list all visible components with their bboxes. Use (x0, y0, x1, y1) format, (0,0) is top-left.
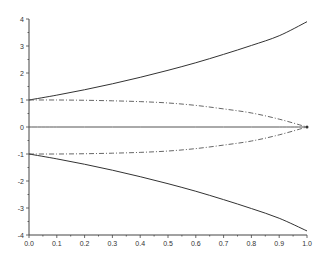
series-lower-solid (29, 154, 307, 231)
x-tick-label: 1.0 (302, 240, 312, 247)
x-tick-label: 0.1 (52, 240, 62, 247)
y-tick-label: -2 (18, 178, 24, 185)
y-axis-tick-labels: -4-3-2-101234 (18, 16, 24, 239)
x-tick-label: 0.7 (219, 240, 229, 247)
series-lower-dashdot (29, 127, 307, 154)
x-tick-label: 0.9 (274, 240, 284, 247)
x-tick-label: 0.2 (80, 240, 90, 247)
line-chart: 0.00.10.20.30.40.50.60.70.80.91.0 -4-3-2… (0, 0, 326, 259)
series-upper-dashdot (29, 100, 307, 127)
x-tick-label: 0.6 (191, 240, 201, 247)
x-tick-label: 0.0 (24, 240, 34, 247)
y-tick-label: 1 (20, 97, 24, 104)
y-tick-label: -4 (18, 232, 24, 239)
x-axis-tick-labels: 0.00.10.20.30.40.50.60.70.80.91.0 (24, 240, 312, 247)
x-tick-label: 0.3 (108, 240, 118, 247)
y-tick-label: -1 (18, 151, 24, 158)
axes (26, 19, 307, 238)
y-tick-label: 4 (20, 16, 24, 23)
series-upper-solid (29, 22, 307, 100)
y-tick-label: 3 (20, 43, 24, 50)
y-tick-label: 2 (20, 70, 24, 77)
x-tick-label: 0.8 (247, 240, 257, 247)
y-tick-label: 0 (20, 124, 24, 131)
x-tick-label: 0.4 (135, 240, 145, 247)
chart-series (29, 22, 309, 231)
y-tick-label: -3 (18, 205, 24, 212)
x-tick-label: 0.5 (163, 240, 173, 247)
convergence-point (306, 126, 309, 129)
